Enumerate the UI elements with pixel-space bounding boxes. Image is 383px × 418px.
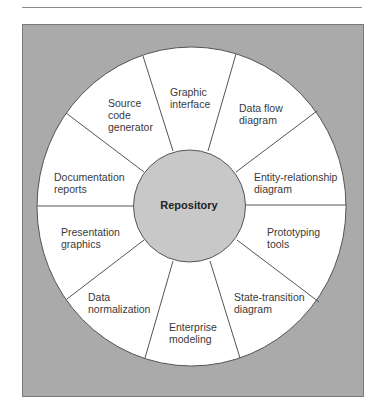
- segment-label-line: Documentation: [54, 171, 125, 183]
- segment-label-line: Data: [88, 291, 150, 303]
- segment-label-line: State-transition: [234, 291, 305, 303]
- segment-enterprise-modeling: Enterprise modeling: [169, 321, 217, 345]
- segment-label-line: Prototyping: [267, 226, 320, 238]
- segment-label-line: diagram: [239, 114, 283, 126]
- segment-label-line: reports: [54, 183, 125, 195]
- segment-prototyping-tools: Prototyping tools: [267, 226, 320, 250]
- segment-entity-relationship-diagram: Entity-relationship diagram: [254, 171, 337, 195]
- segment-label-line: graphics: [61, 238, 120, 250]
- segment-label-line: tools: [267, 238, 320, 250]
- segment-presentation-graphics: Presentation graphics: [61, 226, 120, 250]
- segment-state-transition-diagram: State-transition diagram: [234, 291, 305, 315]
- segment-label-line: Presentation: [61, 226, 120, 238]
- segment-data-flow-diagram: Data flow diagram: [239, 102, 283, 126]
- segment-label-line: interface: [170, 98, 210, 110]
- repository-label: Repository: [139, 199, 239, 211]
- segment-label-line: Entity-relationship: [254, 171, 337, 183]
- segment-label-line: Graphic: [170, 86, 210, 98]
- segment-source-code-generator: Source code generator: [108, 97, 153, 133]
- segment-label-line: Enterprise: [169, 321, 217, 333]
- segment-label-line: Data flow: [239, 102, 283, 114]
- segment-graphic-interface: Graphic interface: [170, 86, 210, 110]
- segment-data-normalization: Data normalization: [88, 291, 150, 315]
- segment-label-line: code: [108, 109, 153, 121]
- segment-label-line: normalization: [88, 303, 150, 315]
- segment-label-line: diagram: [254, 183, 337, 195]
- segment-label-line: Source: [108, 97, 153, 109]
- segment-label-line: diagram: [234, 303, 305, 315]
- segment-label-line: generator: [108, 121, 153, 133]
- segment-documentation-reports: Documentation reports: [54, 171, 125, 195]
- segment-label-line: modeling: [169, 333, 217, 345]
